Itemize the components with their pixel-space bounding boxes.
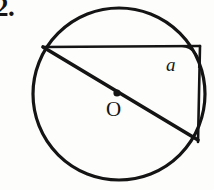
- angle-label: a: [166, 55, 176, 74]
- center-point-label: O: [106, 99, 121, 120]
- horizontal-chord-line: [43, 46, 200, 47]
- geometry-drawing: [0, 0, 214, 190]
- angle-arc-marker: [182, 46, 199, 68]
- center-point-dot: [113, 89, 120, 96]
- geometry-figure: 2. O a: [0, 0, 214, 190]
